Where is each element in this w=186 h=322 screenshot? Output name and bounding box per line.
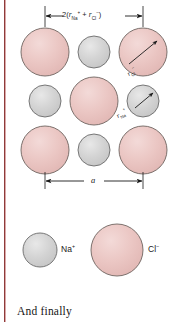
legend-anion-label: Cl− [148,245,159,254]
cation-sphere-bottom-middle [78,134,110,166]
figure-canvas [0,0,186,322]
top-dimension-prefix: 2( [62,10,69,19]
nacl-unit-cell-figure: 2(rNa+ + rCl−) rCl− rNa+ a Na+ Cl− [0,0,186,322]
figure-caption-text: And finally [17,305,72,317]
legend-cation-charge: + [72,243,75,249]
legend-anion-sphere [91,224,143,276]
lattice-spheres [21,28,167,174]
anion-sphere-bottom-left [21,126,69,174]
legend-spheres [23,224,143,276]
anion-sphere-center [70,77,118,125]
top-dimension-r2-subscript: Cl [92,16,96,21]
top-dimension-r1-subscript: Na [72,16,78,21]
legend-cation-symbol: Na [61,244,72,254]
top-dimension-label: 2(rNa+ + rCl−) [62,11,101,19]
cation-sphere-top-middle [78,36,110,68]
anion-sphere-top-left [21,28,69,76]
legend-cation-label: Na+ [61,245,75,254]
legend-cation-sphere [23,233,57,267]
lattice-parameter-label: a [91,176,95,185]
legend-anion-charge: − [156,243,159,249]
cation-sphere-middle-left [29,85,61,117]
anion-sphere-bottom-right [119,126,167,174]
legend-anion-symbol: Cl [148,244,156,254]
figure-page: 2(rNa+ + rCl−) rCl− rNa+ a Na+ Cl− And f… [0,0,186,322]
top-dimension-plus: + [80,10,89,19]
top-dimension-suffix: ) [99,10,102,19]
